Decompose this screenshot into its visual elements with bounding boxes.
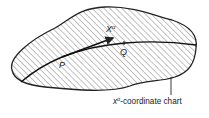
coordinate-chart-diagram: Xα P Q xα-coordinate chart (0, 0, 209, 118)
point-q-label: Q (120, 47, 127, 57)
chart-region (12, 7, 197, 90)
point-p-label: P (59, 60, 65, 70)
chart-caption: xα-coordinate chart (112, 96, 182, 106)
